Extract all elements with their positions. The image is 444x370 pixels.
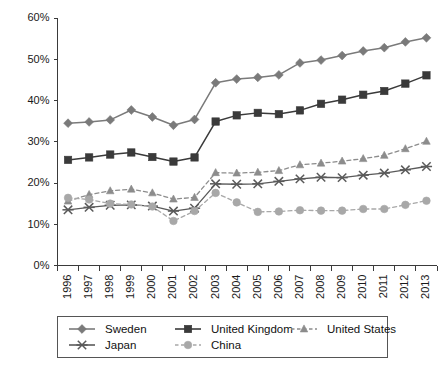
data-point-square bbox=[184, 325, 191, 332]
x-tick-label: 2009 bbox=[335, 275, 347, 299]
data-point-diamond bbox=[127, 106, 136, 115]
data-point-circle bbox=[85, 196, 93, 204]
data-point-triangle bbox=[381, 151, 389, 158]
data-point-x bbox=[62, 206, 73, 214]
data-point-circle bbox=[106, 200, 114, 208]
data-point-square bbox=[317, 100, 324, 107]
data-point-diamond bbox=[211, 78, 220, 87]
data-point-x bbox=[421, 162, 432, 170]
x-tick-label: 2010 bbox=[356, 275, 368, 299]
x-tick-group: 1996199719981999200020012002200320042005… bbox=[58, 266, 438, 299]
data-point-diamond bbox=[106, 115, 115, 124]
legend-label: China bbox=[211, 339, 242, 351]
data-point-triangle bbox=[317, 159, 325, 166]
data-point-circle bbox=[423, 197, 431, 205]
data-point-square bbox=[149, 153, 156, 160]
series-china bbox=[64, 189, 430, 225]
series-line bbox=[68, 75, 426, 161]
data-point-triangle bbox=[338, 157, 346, 164]
data-point-triangle bbox=[149, 189, 157, 196]
x-tick-label: 2002 bbox=[187, 275, 199, 299]
x-tick-label: 2000 bbox=[145, 275, 157, 299]
x-tick-label: 2003 bbox=[209, 275, 221, 299]
series-group bbox=[62, 33, 432, 224]
series-line bbox=[68, 38, 426, 125]
data-point-x bbox=[231, 180, 242, 188]
data-point-diamond bbox=[148, 113, 157, 122]
y-tick-label: 10% bbox=[27, 218, 49, 230]
data-point-x bbox=[84, 203, 95, 211]
data-point-square bbox=[296, 107, 303, 114]
data-point-circle bbox=[296, 206, 304, 214]
x-tick-label: 2011 bbox=[377, 275, 389, 299]
data-point-diamond bbox=[232, 75, 241, 84]
chart-canvas: 0%10%20%30%40%50%60% 1996199719981999200… bbox=[0, 0, 444, 370]
data-point-x bbox=[337, 173, 348, 181]
line-chart: 0%10%20%30%40%50%60% 1996199719981999200… bbox=[0, 0, 444, 370]
data-point-diamond bbox=[380, 43, 389, 52]
y-axis: 0%10%20%30%40%50%60% bbox=[27, 11, 57, 271]
x-tick-label: 2004 bbox=[230, 275, 242, 299]
legend-label: United States bbox=[327, 323, 396, 335]
x-tick-label: 2012 bbox=[398, 275, 410, 299]
data-point-circle bbox=[359, 205, 367, 213]
data-point-x bbox=[400, 166, 411, 174]
x-tick-label: 2008 bbox=[314, 275, 326, 299]
data-point-circle bbox=[212, 189, 220, 197]
data-point-circle bbox=[275, 208, 283, 216]
x-tick-label: 2001 bbox=[166, 275, 178, 299]
data-point-diamond bbox=[169, 121, 178, 130]
data-point-diamond bbox=[64, 119, 73, 128]
series-line bbox=[68, 193, 426, 221]
data-point-circle bbox=[233, 199, 241, 207]
data-point-square bbox=[338, 96, 345, 103]
data-point-diamond bbox=[338, 51, 347, 60]
data-point-circle bbox=[170, 217, 178, 225]
data-point-triangle bbox=[128, 185, 136, 192]
data-point-square bbox=[107, 151, 114, 158]
data-point-diamond bbox=[359, 47, 368, 56]
data-point-circle bbox=[191, 207, 199, 215]
data-point-square bbox=[254, 109, 261, 116]
data-point-square bbox=[360, 91, 367, 98]
data-point-square bbox=[233, 112, 240, 119]
data-point-triangle bbox=[359, 155, 367, 162]
data-point-x bbox=[379, 169, 390, 177]
data-point-square bbox=[170, 158, 177, 165]
data-point-circle bbox=[149, 203, 157, 211]
data-point-circle bbox=[317, 207, 325, 215]
x-tick-label: 1997 bbox=[82, 275, 94, 299]
chart-legend: SwedenUnited KingdomUnited StatesJapanCh… bbox=[58, 317, 397, 358]
series-united-kingdom bbox=[64, 72, 430, 166]
series-line bbox=[68, 141, 426, 201]
data-point-triangle bbox=[423, 137, 431, 144]
data-point-x bbox=[315, 173, 326, 181]
data-point-square bbox=[402, 80, 409, 87]
data-point-circle bbox=[127, 201, 135, 209]
data-point-x bbox=[210, 180, 221, 188]
data-point-x bbox=[168, 207, 179, 215]
data-point-triangle bbox=[296, 161, 304, 168]
data-point-diamond bbox=[274, 71, 283, 80]
data-point-diamond bbox=[317, 56, 326, 65]
data-point-circle bbox=[380, 205, 388, 213]
x-tick-label: 1999 bbox=[124, 275, 136, 299]
data-point-diamond bbox=[85, 118, 94, 127]
data-point-x bbox=[273, 177, 284, 185]
data-point-diamond bbox=[253, 73, 262, 82]
x-tick-label: 2013 bbox=[419, 275, 431, 299]
series-united-states bbox=[64, 137, 430, 204]
data-point-square bbox=[191, 154, 198, 161]
data-point-square bbox=[64, 156, 71, 163]
y-tick-label: 60% bbox=[27, 11, 49, 23]
series-sweden bbox=[64, 33, 431, 129]
data-point-square bbox=[381, 87, 388, 94]
x-tick-label: 1996 bbox=[61, 275, 73, 299]
data-point-square bbox=[128, 149, 135, 156]
data-point-diamond bbox=[401, 38, 410, 47]
y-tick-label: 40% bbox=[27, 94, 49, 106]
data-point-square bbox=[275, 110, 282, 117]
data-point-x bbox=[252, 180, 263, 188]
x-axis: 1996199719981999200020012002200320042005… bbox=[58, 266, 438, 299]
data-point-x bbox=[358, 171, 369, 179]
